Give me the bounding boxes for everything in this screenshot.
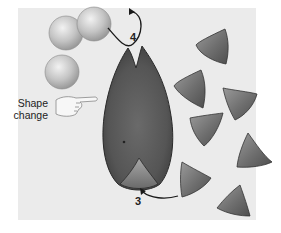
triangle-icon <box>181 162 212 197</box>
pointing-hand-icon <box>56 97 97 117</box>
shape-change-label: Shape change <box>2 97 48 121</box>
substrate-triangles <box>174 29 272 216</box>
change-label-line2: change <box>2 109 48 121</box>
arrow-3-icon <box>143 192 178 198</box>
shape-label-line1: Shape <box>2 97 48 109</box>
triangle-icon <box>223 88 257 120</box>
triangle-icon <box>174 70 205 108</box>
step-4-label: 4 <box>130 31 136 43</box>
triangle-icon <box>196 29 228 64</box>
triangle-icon <box>217 185 250 216</box>
product-spheres <box>45 7 111 89</box>
step-3-label: 3 <box>135 195 141 207</box>
arrowhead-icon <box>129 8 135 15</box>
sphere-icon <box>77 7 111 41</box>
enzyme <box>103 46 173 190</box>
triangle-icon <box>190 113 223 146</box>
sphere-icon <box>45 55 79 89</box>
triangle-icon <box>237 133 272 167</box>
